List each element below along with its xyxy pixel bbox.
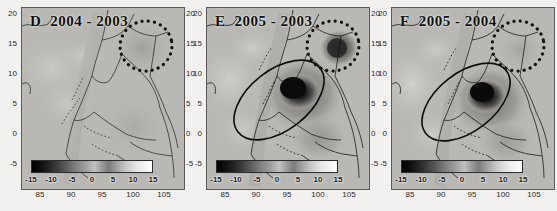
panel-letter: D: [30, 13, 41, 29]
cbar-tick: 10: [314, 175, 323, 184]
figure-root: 20 15 10 5 0 -5 20 15 10 5 0 -5: [0, 0, 557, 211]
y-tick-label: 10: [193, 69, 202, 78]
panel-title: 2005 - 2003: [235, 13, 313, 29]
cbar-tick: -5: [68, 175, 75, 184]
y-tick-label: 20: [378, 9, 387, 18]
cbar-tick: -5: [253, 175, 260, 184]
panel-letter: E: [215, 13, 226, 29]
cbar-tick: 0: [275, 175, 279, 184]
colorbar-gradient: [216, 160, 338, 173]
panel-title: 2005 - 2004: [419, 13, 497, 29]
cbar-tick: -15: [25, 175, 37, 184]
panel-E: 20 15 10 5 0 -5 20 15 10 5 0 -5: [185, 0, 371, 211]
cbar-tick: 10: [129, 175, 138, 184]
colorbar-F: -15 -10 -5 0 5 10 15: [401, 160, 523, 173]
x-tick-label: 100: [126, 190, 139, 199]
cbar-tick: 5: [111, 175, 115, 184]
y-tick-label: -5: [10, 159, 17, 168]
y-tick-label: 0: [13, 129, 17, 138]
y-tick-label: 15: [193, 39, 202, 48]
cbar-tick: 5: [481, 175, 485, 184]
cbar-tick: -10: [45, 175, 57, 184]
x-tick-label: 105: [157, 190, 170, 199]
x-tick-label: 95: [468, 190, 477, 199]
y-axis-E: 20 15 10 5 0 -5: [185, 7, 205, 188]
cbar-tick: 5: [296, 175, 300, 184]
x-tick-label: 95: [283, 190, 292, 199]
cbar-tick: 10: [499, 175, 508, 184]
y-tick-label: -5: [380, 159, 387, 168]
cbar-tick: 0: [90, 175, 94, 184]
y-tick-label: 5: [13, 99, 17, 108]
colorbar-gradient: [401, 160, 523, 173]
cbar-tick: -10: [230, 175, 242, 184]
plot-area-D: D2004 - 2003 -15 -10 -5 0 5 10 15: [21, 7, 185, 190]
plot-area-E: E2005 - 2003 -15 -10 -5 0 5 10 15: [206, 7, 370, 190]
x-axis-D: 85 90 95 100 105: [21, 190, 183, 206]
solid-ellipse-annotation: [408, 48, 524, 157]
panel-label-E: E2005 - 2003: [215, 13, 313, 30]
x-tick-label: 85: [36, 190, 45, 199]
colorbar-D: -15 -10 -5 0 5 10 15: [31, 160, 153, 173]
y-tick-label: 0: [383, 129, 387, 138]
panel-label-F: F2005 - 2004: [400, 13, 497, 30]
y-tick-label: 15: [8, 39, 17, 48]
cbar-tick: -15: [395, 175, 407, 184]
solid-ellipse-annotation: [220, 44, 339, 155]
x-tick-label: 85: [221, 190, 230, 199]
cbar-tick: -10: [415, 175, 427, 184]
y-tick-label: 20: [193, 9, 202, 18]
x-axis-E: 85 90 95 100 105: [206, 190, 368, 206]
dotted-circle-annotation: [488, 17, 548, 75]
x-tick-label: 100: [496, 190, 509, 199]
cbar-tick: 15: [334, 175, 343, 184]
cbar-tick: 0: [460, 175, 464, 184]
panel-title: 2004 - 2003: [50, 13, 128, 29]
y-tick-label: 10: [378, 69, 387, 78]
colorbar-gradient: [31, 160, 153, 173]
plot-area-F: F2005 - 2004 -15 -10 -5 0 5 10 15: [391, 7, 555, 190]
colorbar-tick-labels: -15 -10 -5 0 5 10 15: [21, 175, 163, 187]
x-tick-label: 105: [527, 190, 540, 199]
x-tick-label: 105: [342, 190, 355, 199]
y-tick-label: -5: [195, 159, 202, 168]
x-tick-label: 90: [252, 190, 261, 199]
y-axis-F: 20 15 10 5 0 -5: [370, 7, 390, 188]
x-tick-label: 90: [67, 190, 76, 199]
cbar-tick: 15: [149, 175, 158, 184]
panel-letter: F: [400, 13, 410, 29]
y-tick-label: 5: [198, 99, 202, 108]
y-tick-label: 20: [8, 9, 17, 18]
colorbar-E: -15 -10 -5 0 5 10 15: [216, 160, 338, 173]
y-tick-label: 10: [8, 69, 17, 78]
panel-label-D: D2004 - 2003: [30, 13, 128, 30]
x-axis-F: 85 90 95 100 105: [391, 190, 553, 206]
y-tick-label: 5: [383, 99, 387, 108]
cbar-tick: 15: [519, 175, 528, 184]
cbar-tick: -15: [210, 175, 222, 184]
x-tick-label: 100: [311, 190, 324, 199]
colorbar-tick-labels: -15 -10 -5 0 5 10 15: [391, 175, 533, 187]
x-tick-label: 95: [98, 190, 107, 199]
y-tick-label: 0: [198, 129, 202, 138]
x-tick-label: 90: [437, 190, 446, 199]
y-tick-label: 15: [378, 39, 387, 48]
y-axis-D: 20 15 10 5 0 -5: [0, 7, 20, 188]
cbar-tick: -5: [438, 175, 445, 184]
x-tick-label: 85: [406, 190, 415, 199]
panel-F: 20 15 10 5 0 -5: [370, 0, 556, 211]
panel-D: 20 15 10 5 0 -5 20 15 10 5 0 -5: [0, 0, 186, 211]
colorbar-tick-labels: -15 -10 -5 0 5 10 15: [206, 175, 348, 187]
